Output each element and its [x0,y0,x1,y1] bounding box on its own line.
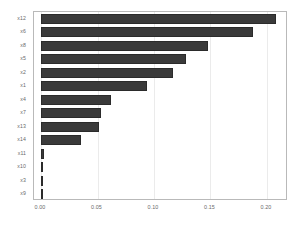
bar-x12 [41,14,276,24]
bar-row [41,149,44,159]
y-tick-label-x8: x8 [20,42,26,48]
bar-row [41,41,208,51]
bar-x1 [41,81,147,91]
y-tick-label-x1: x1 [20,82,26,88]
bar-x2 [41,68,173,78]
x-axis-tick-labels: 0.000.050.100.150.20 [0,204,299,218]
chart-figure: x12x6x8x5x2x1x4x7x13x14x11x10x3x9 0.000.… [0,0,299,237]
y-tick-label-x11: x11 [18,150,26,156]
x-tick-label-3: 0.15 [204,204,215,211]
bar-row [41,122,99,132]
bar-row [41,162,43,172]
bar-row [41,95,111,105]
bar-x6 [41,27,253,37]
x-tick-label-2: 0.10 [148,204,159,211]
bar-x9 [41,189,43,199]
y-tick-label-x5: x5 [20,55,26,61]
x-tick-label-1: 0.05 [91,204,102,211]
y-tick-label-x14: x14 [17,136,26,142]
y-tick-label-x6: x6 [20,28,26,34]
bar-x7 [41,108,101,118]
bar-x8 [41,41,208,51]
bar-row [41,81,147,91]
plot-area [33,11,287,200]
bar-row [41,176,43,186]
bar-x5 [41,54,186,64]
bar-row [41,68,173,78]
y-tick-label-x12: x12 [17,15,26,21]
y-tick-label-x9: x9 [20,190,26,196]
y-tick-label-x13: x13 [17,123,26,129]
bar-row [41,14,276,24]
y-tick-label-x3: x3 [20,177,26,183]
y-tick-label-x4: x4 [20,96,26,102]
y-axis-tick-labels: x12x6x8x5x2x1x4x7x13x14x11x10x3x9 [0,11,30,200]
x-tick-label-4: 0.20 [261,204,272,211]
y-tick-label-x2: x2 [20,69,26,75]
y-tick-label-x10: x10 [17,163,26,169]
bar-x3 [41,176,43,186]
x-tick-label-0: 0.00 [35,204,46,211]
bar-x13 [41,122,99,132]
bar-x11 [41,149,44,159]
bar-row [41,189,43,199]
bar-x14 [41,135,81,145]
bar-row [41,54,186,64]
bar-row [41,135,81,145]
bar-x10 [41,162,43,172]
bar-row [41,108,101,118]
y-tick-label-x7: x7 [20,109,26,115]
bar-row [41,27,253,37]
bar-x4 [41,95,111,105]
bar-series [34,12,286,199]
